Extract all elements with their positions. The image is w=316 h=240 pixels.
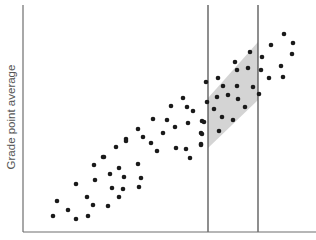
data-point bbox=[184, 147, 189, 152]
data-point bbox=[246, 66, 251, 71]
data-point bbox=[169, 104, 174, 109]
scatter-chart bbox=[0, 0, 316, 240]
data-point bbox=[186, 121, 191, 126]
data-point bbox=[212, 107, 217, 112]
data-point bbox=[139, 176, 144, 181]
data-point bbox=[117, 166, 122, 171]
data-point bbox=[92, 163, 97, 168]
data-point bbox=[86, 214, 91, 219]
data-point bbox=[235, 68, 240, 73]
data-point bbox=[291, 41, 296, 46]
data-point bbox=[205, 100, 210, 105]
data-point bbox=[114, 145, 119, 150]
data-point bbox=[220, 115, 225, 120]
data-point bbox=[66, 208, 71, 213]
data-point bbox=[149, 141, 154, 146]
data-point bbox=[136, 162, 141, 167]
data-point bbox=[226, 93, 231, 98]
data-point bbox=[199, 143, 204, 148]
data-point bbox=[174, 146, 179, 151]
data-point bbox=[173, 125, 178, 130]
data-point bbox=[188, 156, 193, 161]
data-point bbox=[117, 195, 122, 200]
data-point bbox=[102, 155, 107, 160]
data-point bbox=[141, 135, 146, 140]
data-point bbox=[91, 203, 96, 208]
data-point bbox=[181, 96, 186, 101]
data-point bbox=[137, 185, 142, 190]
data-point bbox=[202, 120, 207, 125]
data-point bbox=[282, 32, 287, 37]
data-point bbox=[243, 105, 248, 110]
data-point bbox=[165, 118, 170, 123]
data-point bbox=[257, 92, 262, 97]
y-axis-label: Grade point average bbox=[5, 47, 19, 187]
data-point bbox=[74, 217, 79, 222]
data-points bbox=[51, 32, 296, 222]
data-point bbox=[200, 132, 205, 137]
data-point bbox=[151, 117, 156, 122]
data-point bbox=[93, 178, 98, 183]
data-point bbox=[267, 76, 272, 81]
data-point bbox=[279, 64, 284, 69]
data-point bbox=[231, 118, 236, 123]
data-point bbox=[74, 182, 79, 187]
data-point bbox=[185, 105, 190, 110]
data-point bbox=[155, 149, 160, 154]
data-point bbox=[204, 80, 209, 85]
data-point bbox=[161, 131, 166, 136]
data-point bbox=[51, 214, 56, 219]
data-point bbox=[221, 84, 226, 89]
data-point bbox=[251, 85, 256, 90]
data-point bbox=[124, 139, 129, 144]
data-point bbox=[269, 43, 274, 48]
data-point bbox=[281, 75, 286, 80]
data-point bbox=[191, 109, 196, 114]
shaded-band bbox=[208, 42, 258, 148]
data-point bbox=[259, 68, 264, 73]
data-point bbox=[55, 199, 60, 204]
data-point bbox=[248, 50, 253, 55]
data-point bbox=[260, 55, 265, 60]
data-point bbox=[235, 84, 240, 89]
data-point bbox=[106, 204, 111, 209]
data-point bbox=[215, 95, 220, 100]
data-point bbox=[136, 127, 141, 132]
data-point bbox=[121, 187, 126, 192]
data-point bbox=[108, 172, 113, 177]
data-point bbox=[233, 60, 238, 65]
data-point bbox=[110, 186, 115, 191]
data-point bbox=[290, 52, 295, 57]
data-point bbox=[236, 97, 241, 102]
data-point bbox=[216, 76, 221, 81]
data-point bbox=[122, 175, 127, 180]
data-point bbox=[85, 195, 90, 200]
data-point bbox=[217, 129, 222, 134]
